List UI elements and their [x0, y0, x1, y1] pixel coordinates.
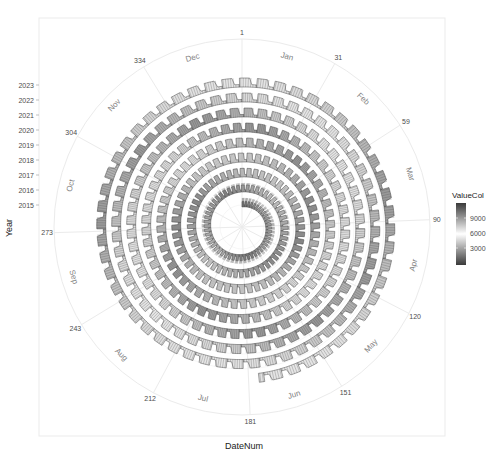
legend-title: ValueCol [452, 191, 484, 200]
legend-tick-label: 6000 [470, 230, 486, 237]
year-tick-label: 2017 [18, 172, 34, 179]
date-tick-label: 1 [240, 29, 244, 36]
year-axis: 201520162017201820192020202120222023 [18, 82, 39, 209]
year-tick-label: 2019 [18, 142, 34, 149]
date-tick-label: 273 [41, 229, 53, 236]
date-tick-label: 334 [134, 57, 146, 64]
year-tick-label: 2015 [18, 202, 34, 209]
year-tick-label: 2021 [18, 112, 34, 119]
spiral-chart: 1315990120151181212243273304334JanFebMar… [0, 0, 498, 468]
legend-colorbar [456, 203, 466, 265]
legend-tick-label: 9000 [470, 215, 486, 222]
legend: ValueCol 300060009000 [452, 191, 486, 265]
date-tick-label: 181 [245, 418, 257, 425]
y-axis-title: Year [4, 219, 14, 237]
date-tick-label: 212 [144, 395, 156, 402]
date-tick-label: 59 [402, 118, 410, 125]
date-tick-label: 31 [334, 54, 342, 61]
date-tick-label: 243 [70, 325, 82, 332]
year-tick-label: 2018 [18, 157, 34, 164]
year-tick-label: 2020 [18, 127, 34, 134]
legend-tick-label: 3000 [470, 245, 486, 252]
year-tick-label: 2016 [18, 187, 34, 194]
date-tick-label: 90 [433, 216, 441, 223]
date-tick-label: 151 [340, 389, 352, 396]
year-tick-label: 2022 [18, 97, 34, 104]
date-tick-label: 120 [409, 313, 421, 320]
year-tick-label: 2023 [18, 82, 34, 89]
date-tick-label: 304 [65, 129, 77, 136]
x-axis-title: DateNum [225, 441, 263, 451]
